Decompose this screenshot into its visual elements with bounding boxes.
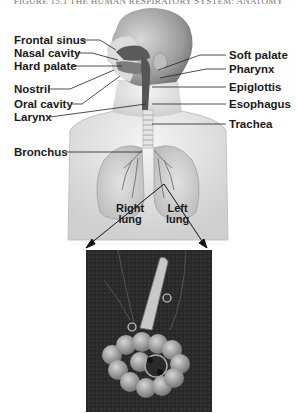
leader-nostril bbox=[48, 70, 114, 89]
label-larynx: Larynx bbox=[14, 111, 52, 123]
label-oral-cavity: Oral cavity bbox=[14, 98, 73, 110]
leader-oral-cavity bbox=[72, 76, 120, 104]
label-pharynx: Pharynx bbox=[229, 63, 274, 75]
alveoli-inset bbox=[86, 250, 212, 412]
label-right-lung-line2: lung bbox=[116, 214, 144, 225]
label-left-lung: Left lung bbox=[166, 203, 189, 225]
label-soft-palate: Soft palate bbox=[229, 49, 288, 61]
label-epiglottis: Epiglottis bbox=[229, 81, 281, 93]
label-trachea: Trachea bbox=[229, 118, 272, 130]
label-frontal-sinus: Frontal sinus bbox=[14, 34, 86, 46]
label-nasal-cavity: Nasal cavity bbox=[14, 47, 81, 59]
trachea bbox=[143, 110, 153, 148]
label-esophagus: Esophagus bbox=[229, 98, 291, 110]
label-hard-palate: Hard palate bbox=[14, 60, 77, 72]
label-bronchus: Bronchus bbox=[14, 146, 68, 158]
label-right-lung: Right lung bbox=[116, 203, 144, 225]
label-nostril: Nostril bbox=[14, 83, 50, 95]
label-left-lung-line2: lung bbox=[166, 214, 189, 225]
